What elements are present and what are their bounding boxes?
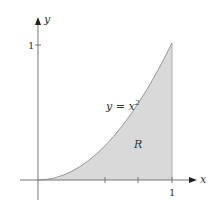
x-axis-label: x: [200, 173, 207, 186]
curve-label: y = x2: [105, 98, 140, 113]
x-axis-arrow-icon: [189, 177, 197, 183]
y-axis-label: y: [43, 13, 51, 26]
y-tick-label: 1: [28, 40, 34, 51]
region-label: R: [133, 138, 142, 151]
shaded-region-R: [38, 43, 172, 180]
region-diagram: y x 1 1 y = x2 R: [0, 0, 215, 211]
x-tick-label: 1: [169, 187, 175, 198]
y-axis-arrow-icon: [35, 17, 41, 25]
